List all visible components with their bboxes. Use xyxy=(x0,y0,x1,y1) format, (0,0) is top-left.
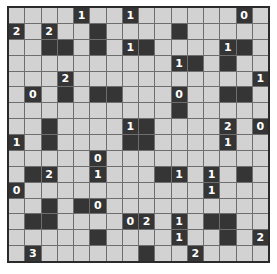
empty-cell[interactable] xyxy=(253,87,268,102)
empty-cell[interactable] xyxy=(253,135,268,150)
empty-cell[interactable] xyxy=(42,151,57,166)
empty-cell[interactable] xyxy=(123,199,138,214)
empty-cell[interactable] xyxy=(155,40,170,55)
empty-cell[interactable] xyxy=(58,8,73,23)
empty-cell[interactable] xyxy=(172,183,187,198)
empty-cell[interactable] xyxy=(74,167,89,182)
empty-cell[interactable] xyxy=(58,167,73,182)
empty-cell[interactable] xyxy=(90,214,105,229)
empty-cell[interactable] xyxy=(9,87,24,102)
empty-cell[interactable] xyxy=(204,24,219,39)
empty-cell[interactable] xyxy=(42,183,57,198)
empty-cell[interactable] xyxy=(9,167,24,182)
empty-cell[interactable] xyxy=(155,230,170,245)
empty-cell[interactable] xyxy=(74,246,89,261)
empty-cell[interactable] xyxy=(74,103,89,118)
empty-cell[interactable] xyxy=(253,246,268,261)
empty-cell[interactable] xyxy=(155,8,170,23)
empty-cell[interactable] xyxy=(155,214,170,229)
empty-cell[interactable] xyxy=(204,135,219,150)
empty-cell[interactable] xyxy=(90,72,105,87)
empty-cell[interactable] xyxy=(155,246,170,261)
empty-cell[interactable] xyxy=(172,8,187,23)
empty-cell[interactable] xyxy=(139,87,154,102)
empty-cell[interactable] xyxy=(107,183,122,198)
empty-cell[interactable] xyxy=(139,199,154,214)
empty-cell[interactable] xyxy=(42,103,57,118)
empty-cell[interactable] xyxy=(58,119,73,134)
empty-cell[interactable] xyxy=(74,183,89,198)
empty-cell[interactable] xyxy=(155,151,170,166)
empty-cell[interactable] xyxy=(220,199,235,214)
empty-cell[interactable] xyxy=(237,119,252,134)
empty-cell[interactable] xyxy=(58,230,73,245)
empty-cell[interactable] xyxy=(42,87,57,102)
empty-cell[interactable] xyxy=(155,24,170,39)
empty-cell[interactable] xyxy=(253,56,268,71)
empty-cell[interactable] xyxy=(204,56,219,71)
empty-cell[interactable] xyxy=(237,151,252,166)
empty-cell[interactable] xyxy=(123,151,138,166)
empty-cell[interactable] xyxy=(172,246,187,261)
empty-cell[interactable] xyxy=(123,246,138,261)
empty-cell[interactable] xyxy=(74,56,89,71)
empty-cell[interactable] xyxy=(188,167,203,182)
empty-cell[interactable] xyxy=(9,103,24,118)
empty-cell[interactable] xyxy=(253,103,268,118)
empty-cell[interactable] xyxy=(74,135,89,150)
empty-cell[interactable] xyxy=(237,24,252,39)
empty-cell[interactable] xyxy=(188,151,203,166)
empty-cell[interactable] xyxy=(25,40,40,55)
empty-cell[interactable] xyxy=(204,72,219,87)
empty-cell[interactable] xyxy=(58,24,73,39)
empty-cell[interactable] xyxy=(107,119,122,134)
empty-cell[interactable] xyxy=(107,8,122,23)
empty-cell[interactable] xyxy=(139,151,154,166)
empty-cell[interactable] xyxy=(188,103,203,118)
empty-cell[interactable] xyxy=(123,24,138,39)
empty-cell[interactable] xyxy=(123,87,138,102)
empty-cell[interactable] xyxy=(74,230,89,245)
empty-cell[interactable] xyxy=(25,230,40,245)
empty-cell[interactable] xyxy=(42,8,57,23)
empty-cell[interactable] xyxy=(188,24,203,39)
empty-cell[interactable] xyxy=(188,72,203,87)
empty-cell[interactable] xyxy=(42,230,57,245)
empty-cell[interactable] xyxy=(9,246,24,261)
empty-cell[interactable] xyxy=(172,135,187,150)
empty-cell[interactable] xyxy=(107,246,122,261)
empty-cell[interactable] xyxy=(204,151,219,166)
empty-cell[interactable] xyxy=(90,183,105,198)
empty-cell[interactable] xyxy=(155,56,170,71)
empty-cell[interactable] xyxy=(25,135,40,150)
empty-cell[interactable] xyxy=(204,103,219,118)
empty-cell[interactable] xyxy=(220,183,235,198)
empty-cell[interactable] xyxy=(107,230,122,245)
empty-cell[interactable] xyxy=(172,40,187,55)
empty-cell[interactable] xyxy=(42,72,57,87)
empty-cell[interactable] xyxy=(188,214,203,229)
empty-cell[interactable] xyxy=(204,230,219,245)
empty-cell[interactable] xyxy=(74,119,89,134)
empty-cell[interactable] xyxy=(123,56,138,71)
empty-cell[interactable] xyxy=(74,214,89,229)
empty-cell[interactable] xyxy=(107,56,122,71)
empty-cell[interactable] xyxy=(237,56,252,71)
empty-cell[interactable] xyxy=(42,246,57,261)
empty-cell[interactable] xyxy=(155,87,170,102)
empty-cell[interactable] xyxy=(139,183,154,198)
empty-cell[interactable] xyxy=(188,87,203,102)
empty-cell[interactable] xyxy=(58,246,73,261)
empty-cell[interactable] xyxy=(139,72,154,87)
empty-cell[interactable] xyxy=(155,119,170,134)
empty-cell[interactable] xyxy=(253,40,268,55)
empty-cell[interactable] xyxy=(253,151,268,166)
empty-cell[interactable] xyxy=(237,135,252,150)
empty-cell[interactable] xyxy=(90,119,105,134)
empty-cell[interactable] xyxy=(58,135,73,150)
empty-cell[interactable] xyxy=(188,199,203,214)
empty-cell[interactable] xyxy=(90,135,105,150)
empty-cell[interactable] xyxy=(9,199,24,214)
empty-cell[interactable] xyxy=(25,24,40,39)
empty-cell[interactable] xyxy=(188,8,203,23)
